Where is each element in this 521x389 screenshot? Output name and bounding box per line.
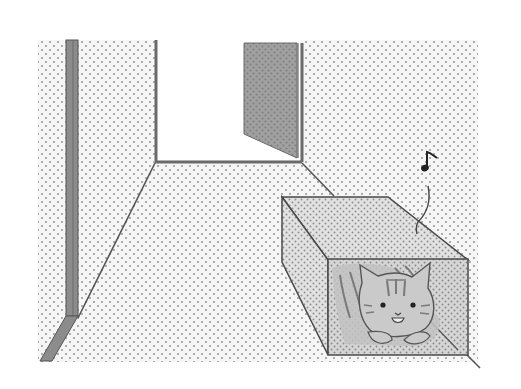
illustration: Cat hiding in a box tunnel in a hallway (0, 0, 521, 389)
cat (332, 263, 440, 346)
